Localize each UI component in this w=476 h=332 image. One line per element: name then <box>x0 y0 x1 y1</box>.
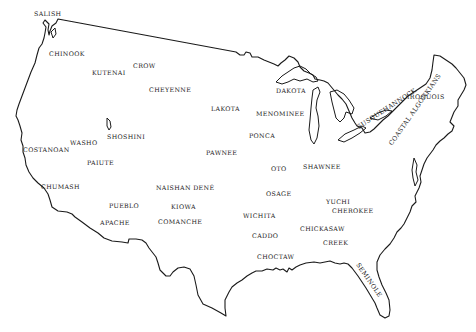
tribe-label-apache: APACHE <box>100 220 130 226</box>
tribe-label-chumash: CHUMASH <box>41 184 80 190</box>
tribe-label-chickasaw: CHICKASAW <box>300 226 345 232</box>
tribe-label-lakota: LAKOTA <box>211 106 240 112</box>
tribe-label-pawnee: PAWNEE <box>206 150 237 156</box>
tribe-label-kutenai: KUTENAI <box>92 70 126 76</box>
tribe-label-crow: CROW <box>133 63 156 69</box>
tribe-label-menominee: MENOMINEE <box>256 111 305 117</box>
tribe-label-caddo: CADDO <box>252 233 278 239</box>
tribe-label-shoshini: SHOSHINI <box>107 134 145 140</box>
tribe-label-wichita: WICHITA <box>243 213 276 219</box>
tribe-label-creek: CREEK <box>323 240 348 246</box>
tribe-label-choctaw: CHOCTAW <box>257 254 294 260</box>
great-salt-lake <box>107 118 111 130</box>
tribe-label-cheyenne: CHEYENNE <box>149 87 191 93</box>
tribe-label-cherokee: CHEROKEE <box>332 208 374 214</box>
tribe-label-oto: OTO <box>271 166 287 172</box>
tribe-label-yuchi: YUCHI <box>326 199 350 205</box>
lake-michigan <box>309 87 320 144</box>
tribe-label-washo: WASHO <box>70 140 97 146</box>
tribe-label-osage: OSAGE <box>266 191 291 197</box>
us-border-outline <box>16 19 466 318</box>
lake-superior <box>276 66 318 84</box>
tribe-label-pueblo: PUEBLO <box>109 203 139 209</box>
chesapeake-bay <box>412 158 418 186</box>
tribe-label-naishan-den-: NAISHAN DENÉ <box>156 185 214 191</box>
puget-sound <box>51 28 56 38</box>
tribe-label-ponca: PONCA <box>249 133 275 139</box>
tribe-label-salish: SALISH <box>34 11 61 17</box>
lake-huron <box>330 90 354 122</box>
tribe-label-chinook: CHINOOK <box>49 51 85 57</box>
tribe-label-comanche: COMANCHE <box>158 219 202 225</box>
tribe-label-costanoan: COSTANOAN <box>23 147 70 153</box>
tribe-label-dakota: DAKOTA <box>276 88 306 94</box>
tribe-label-kiowa: KIOWA <box>171 204 196 210</box>
tribe-label-shawnee: SHAWNEE <box>303 164 341 170</box>
tribe-label-paiute: PAIUTE <box>87 160 114 166</box>
